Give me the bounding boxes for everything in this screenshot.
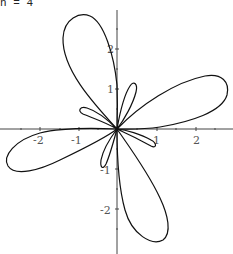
x-tick-label: -2 (33, 134, 44, 147)
y-tick-label: 1 (107, 83, 114, 96)
x-tick-label: 2 (193, 134, 200, 147)
y-tick-label: -2 (100, 204, 111, 217)
x-tick-label: 1 (153, 134, 160, 147)
x-tick-label: -1 (71, 134, 82, 147)
polar-plot: -2 -1 1 2 2 1 -1 -2 (0, 0, 233, 254)
